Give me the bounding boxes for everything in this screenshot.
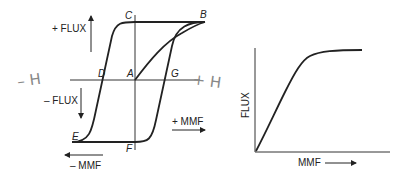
point-e-label: E — [72, 131, 79, 142]
point-b-label: B — [200, 9, 207, 20]
magnetization-curve — [256, 50, 362, 151]
magnetization-curve-chart: FLUX MMF — [240, 48, 390, 168]
point-c-label: C — [125, 10, 133, 21]
plus-flux-label: + FLUX — [52, 23, 87, 34]
right-x-label: MMF — [298, 157, 321, 168]
point-g-label: G — [171, 68, 179, 79]
point-f-label: F — [126, 143, 133, 154]
plus-mmf-label: + MMF — [172, 116, 203, 127]
handwritten-plus-h: + H — [191, 70, 222, 92]
handwritten-minus-h: – H — [16, 70, 42, 91]
minus-mmf-label: – MMF — [70, 160, 101, 171]
hysteresis-diagrams: C B D A G E F + FLUX – FLUX + MMF – MMF … — [0, 0, 406, 177]
hysteresis-loop-chart: C B D A G E F + FLUX – FLUX + MMF – MMF … — [16, 9, 222, 171]
point-a-label: A — [126, 68, 134, 79]
point-d-label: D — [98, 68, 105, 79]
minus-flux-label: – FLUX — [44, 95, 78, 106]
right-y-label: FLUX — [240, 92, 251, 118]
